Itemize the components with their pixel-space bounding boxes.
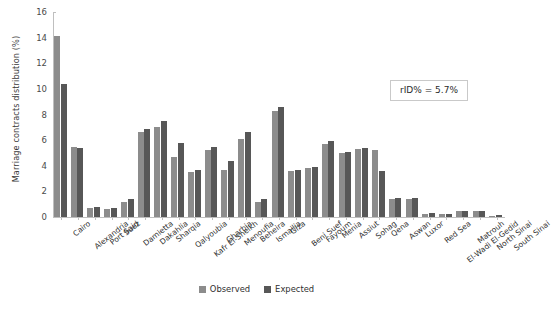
bar-observed bbox=[389, 199, 395, 217]
bar-observed bbox=[305, 168, 311, 217]
legend-item: Expected bbox=[264, 284, 314, 294]
legend-item: Observed bbox=[199, 284, 250, 294]
y-tick-label: 2 bbox=[19, 186, 53, 196]
bar-group bbox=[287, 12, 304, 217]
bar-expected bbox=[195, 170, 201, 217]
bar-observed bbox=[154, 127, 160, 217]
bar-expected bbox=[362, 148, 368, 217]
legend-label: Expected bbox=[275, 284, 314, 294]
bar-expected bbox=[94, 207, 100, 217]
bar-group bbox=[103, 12, 120, 217]
legend-swatch bbox=[264, 286, 271, 293]
bar-group bbox=[271, 12, 288, 217]
bar-group bbox=[70, 12, 87, 217]
bar-group bbox=[254, 12, 271, 217]
bar-observed bbox=[456, 211, 462, 217]
bar-observed bbox=[71, 147, 77, 217]
bar-expected bbox=[211, 147, 217, 217]
bar-expected bbox=[312, 167, 318, 217]
bar-expected bbox=[261, 199, 267, 217]
bar-group bbox=[137, 12, 154, 217]
bar-observed bbox=[489, 216, 495, 217]
y-tick-label: 0 bbox=[19, 212, 53, 222]
bar-observed bbox=[87, 208, 93, 217]
x-tick-label: Red Sea bbox=[442, 219, 472, 245]
bar-group bbox=[455, 12, 472, 217]
bar-observed bbox=[272, 111, 278, 217]
bar-observed bbox=[372, 150, 378, 217]
bar-observed bbox=[121, 202, 127, 217]
bar-observed bbox=[355, 149, 361, 217]
bar-observed bbox=[422, 214, 428, 217]
bar-expected bbox=[144, 129, 150, 217]
bar-observed bbox=[288, 171, 294, 217]
bar-group bbox=[371, 12, 388, 217]
bar-group bbox=[86, 12, 103, 217]
bar-group bbox=[304, 12, 321, 217]
bar-expected bbox=[61, 84, 67, 217]
y-tick-label: 6 bbox=[19, 135, 53, 145]
y-tick-label: 16 bbox=[19, 7, 53, 17]
bar-observed bbox=[138, 132, 144, 217]
bar-expected bbox=[379, 171, 385, 217]
bar-expected bbox=[295, 170, 301, 217]
x-tick-label: Cairo bbox=[72, 219, 93, 238]
bar-group bbox=[187, 12, 204, 217]
y-tick-label: 8 bbox=[19, 110, 53, 120]
bar-expected bbox=[412, 198, 418, 217]
bar-group bbox=[421, 12, 438, 217]
bar-expected bbox=[161, 121, 167, 217]
bar-observed bbox=[238, 139, 244, 217]
bar-group bbox=[472, 12, 489, 217]
chart-legend: ObservedExpected bbox=[0, 284, 513, 294]
bar-group bbox=[321, 12, 338, 217]
bar-expected bbox=[245, 132, 251, 217]
bar-group bbox=[220, 12, 237, 217]
bar-observed bbox=[339, 153, 345, 217]
bar-expected bbox=[228, 161, 234, 217]
legend-label: Observed bbox=[210, 284, 250, 294]
bar-expected bbox=[128, 199, 134, 217]
bar-observed bbox=[473, 211, 479, 217]
bar-observed bbox=[104, 209, 110, 217]
bar-group bbox=[388, 12, 405, 217]
bar-observed bbox=[221, 170, 227, 217]
bar-expected bbox=[345, 152, 351, 217]
bar-expected bbox=[111, 208, 117, 217]
y-tick-label: 10 bbox=[19, 84, 53, 94]
bar-group bbox=[438, 12, 455, 217]
bar-observed bbox=[205, 150, 211, 217]
bar-observed bbox=[171, 157, 177, 217]
bar-expected bbox=[395, 198, 401, 217]
bar-group bbox=[237, 12, 254, 217]
plot-area: 0246810121416 bbox=[53, 12, 505, 217]
bar-observed bbox=[322, 144, 328, 217]
bar-observed bbox=[406, 199, 412, 217]
bar-expected bbox=[77, 148, 83, 217]
bar-group bbox=[354, 12, 371, 217]
bar-expected bbox=[178, 143, 184, 217]
bar-group bbox=[405, 12, 422, 217]
bar-observed bbox=[54, 36, 60, 217]
y-tick-label: 4 bbox=[19, 161, 53, 171]
bar-group bbox=[338, 12, 355, 217]
y-tick-label: 12 bbox=[19, 58, 53, 68]
x-tick-label: Giza bbox=[289, 219, 308, 236]
x-axis-category-labels: CairoAlexandriaPort SaidSuezDamiettaDaka… bbox=[53, 219, 505, 281]
bar-group bbox=[170, 12, 187, 217]
bar-group bbox=[488, 12, 505, 217]
bar-observed bbox=[439, 214, 445, 217]
bar-group bbox=[53, 12, 70, 217]
bar-observed bbox=[188, 172, 194, 217]
bar-expected bbox=[328, 141, 334, 217]
bar-series-container bbox=[53, 12, 505, 217]
bar-observed bbox=[255, 202, 261, 217]
rid-annotation-box: rID% = 5.7% bbox=[390, 80, 468, 101]
bar-group bbox=[204, 12, 221, 217]
bar-group bbox=[120, 12, 137, 217]
bar-expected bbox=[278, 107, 284, 217]
legend-swatch bbox=[199, 286, 206, 293]
y-tick-label: 14 bbox=[19, 33, 53, 43]
bar-group bbox=[153, 12, 170, 217]
